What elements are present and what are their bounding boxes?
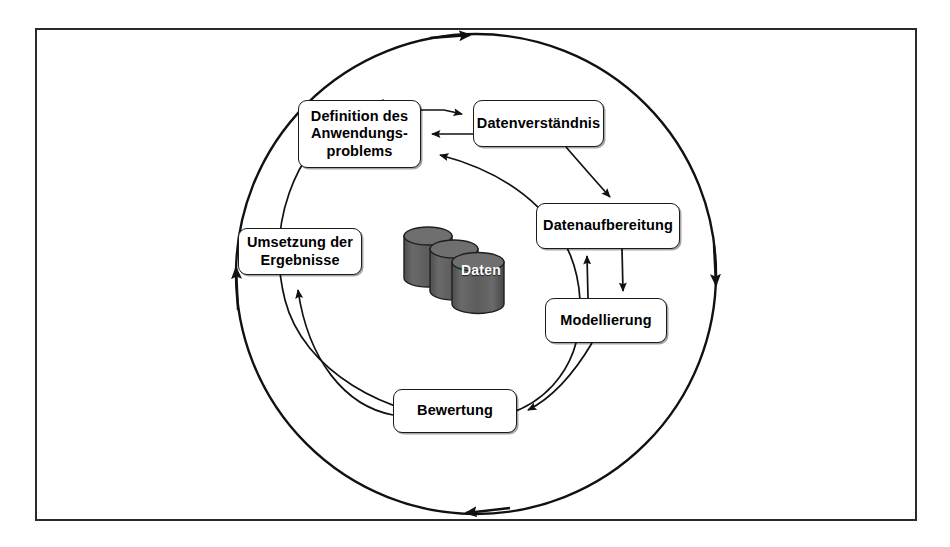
outer-ring-arrow-left: [236, 268, 238, 310]
node-datenaufbereitung[interactable]: Datenaufbereitung: [536, 203, 680, 249]
connector-definition-to-datenverstaendnis: [421, 110, 462, 114]
node-modellierung-label: Modellierung: [555, 312, 656, 329]
outer-ring-arrow-top: [430, 35, 470, 38]
connector-datenaufbereitung-to-modellierung: [622, 249, 623, 291]
node-umsetzung-label: Umsetzung der Ergebnisse: [242, 234, 358, 268]
node-definition-label: Definition des Anwendungs- problems: [306, 108, 413, 159]
node-datenverstaendnis[interactable]: Datenverständnis: [473, 100, 604, 147]
connector-bewertung-to-umsetzung: [298, 290, 393, 415]
connector-modellierung-to-datenaufbereitung: [587, 256, 588, 298]
datastore-label: Daten: [446, 262, 516, 278]
node-bewertung[interactable]: Bewertung: [393, 389, 517, 433]
node-umsetzung-der-ergebnisse[interactable]: Umsetzung der Ergebnisse: [238, 228, 362, 275]
node-definition-des-anwendungsproblems[interactable]: Definition des Anwendungs- problems: [298, 100, 421, 168]
node-datenaufbereitung-label: Datenaufbereitung: [538, 217, 678, 234]
node-bewertung-label: Bewertung: [412, 402, 498, 419]
node-datenverstaendnis-label: Datenverständnis: [472, 115, 605, 132]
diagram-canvas: Definition des Anwendungs- problems Date…: [0, 0, 950, 547]
node-modellierung[interactable]: Modellierung: [545, 298, 667, 343]
connector-datenverstaendnis-to-datenaufbereitung: [566, 147, 610, 197]
